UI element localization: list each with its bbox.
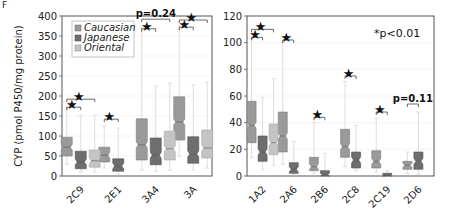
box-caucasian-3a4	[136, 28, 147, 170]
x-category-label: 2A6	[278, 184, 300, 206]
panel-label: F	[2, 0, 7, 10]
star-icon: ★	[312, 107, 324, 122]
y-tick-label: 100	[38, 131, 57, 142]
box-japanese-3a	[188, 85, 199, 170]
p-value-label: p=0.24	[136, 8, 176, 19]
star-icon: ★	[141, 19, 153, 34]
y-tick-label: 150	[38, 111, 57, 122]
significance-note: *p<0.01	[374, 27, 420, 40]
significance-bracket: p=0.11	[393, 93, 433, 107]
y-tick-label: 100	[223, 37, 242, 48]
left-chart-panel: 050100150200250300350400 2C92E13A43A ★★★…	[38, 8, 213, 205]
box-caucasian-2c8	[341, 81, 350, 166]
box-japanese-2d6	[414, 112, 423, 175]
star-icon: ★	[374, 102, 386, 117]
star-icon: ★	[280, 30, 292, 45]
y-tick-label: 50	[44, 151, 57, 162]
star-icon: ★	[103, 109, 115, 124]
y-tick-label: 250	[38, 71, 57, 82]
y-tick-label: 40	[229, 117, 242, 128]
y-tick-label: 60	[229, 91, 242, 102]
legend-swatch-oriental	[75, 45, 81, 51]
significance-bracket: ★	[312, 107, 325, 122]
box-japanese-1a2	[258, 97, 267, 169]
star-icon: ★	[73, 89, 85, 104]
box-japanese-2c19	[383, 171, 392, 176]
box-caucasian-2e1	[99, 126, 110, 168]
y-tick-label: 20	[229, 144, 242, 155]
x-category-label: 2C8	[340, 184, 362, 206]
box-oriental-2c9	[89, 115, 100, 172]
legend-label-oriental: Oriental	[84, 42, 124, 53]
box-caucasian-2a6	[278, 43, 287, 164]
y-tick-label: 120	[223, 11, 242, 22]
box-caucasian-2d6	[403, 152, 412, 173]
x-category-label: 3A4	[140, 184, 162, 206]
y-tick-label: 200	[38, 91, 57, 102]
box-japanese-2b6	[320, 153, 329, 176]
star-icon: ★	[255, 19, 267, 34]
significance-bracket: ★	[374, 102, 387, 117]
y-tick-label: 400	[38, 11, 57, 22]
chart-figure: F CYP (pmol P450/mg protein) 05010015020…	[0, 0, 450, 212]
x-category-label: 2C9	[64, 184, 86, 206]
significance-bracket: p=0.24	[136, 8, 176, 22]
box-japanese-2c8	[352, 125, 361, 170]
box-japanese-2a6	[289, 141, 298, 174]
star-icon: ★	[185, 10, 197, 25]
y-tick-label: 350	[38, 31, 57, 42]
box-oriental-3a	[202, 82, 213, 168]
p-value-label: p=0.11	[393, 93, 433, 104]
box-japanese-2c9	[75, 115, 86, 172]
significance-bracket: ★	[280, 30, 293, 45]
right-chart-panel: 020406080100120 1A22A62B62C82C192D6 ★★★★…	[223, 11, 434, 210]
x-category-label: 2C19	[366, 184, 392, 210]
significance-bracket: ★	[141, 19, 156, 34]
box-oriental-1a2	[269, 79, 278, 166]
significance-bracket: ★	[343, 66, 356, 81]
y-tick-label: 0	[236, 171, 242, 182]
x-category-label: 3A	[182, 184, 199, 201]
box-caucasian-2c19	[372, 119, 381, 172]
legend-swatch-japanese	[75, 35, 81, 41]
star-icon: ★	[343, 66, 355, 81]
y-tick-label: 80	[229, 64, 242, 75]
legend: Caucasian Japanese Oriental	[72, 21, 136, 57]
y-tick-label: 300	[38, 51, 57, 62]
x-category-label: 2D6	[402, 184, 424, 206]
x-category-label: 2E1	[102, 184, 123, 205]
significance-bracket: ★	[103, 109, 118, 124]
box-japanese-2e1	[113, 128, 124, 174]
x-category-label: 2B6	[309, 184, 331, 206]
legend-swatch-caucasian	[75, 25, 81, 31]
box-caucasian-1a2	[247, 39, 256, 158]
y-tick-label: 0	[51, 171, 57, 182]
significance-bracket: ★	[252, 19, 274, 34]
box-japanese-3a4	[150, 86, 161, 171]
x-category-label: 1A2	[246, 184, 268, 206]
box-caucasian-2b6	[309, 123, 318, 174]
y-axis-label: CYP (pmol P450/mg protein)	[13, 25, 24, 166]
